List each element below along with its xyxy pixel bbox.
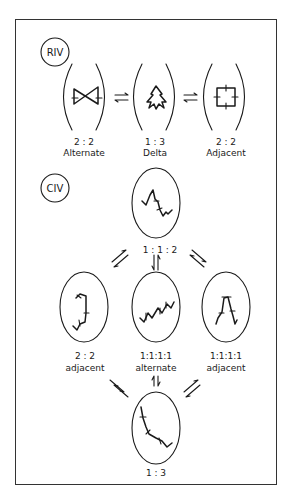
svg-text:Adjacent: Adjacent	[206, 148, 246, 158]
svg-text:1:1:1:1: 1:1:1:1	[210, 351, 242, 361]
config-riv-delta: 1 : 3 Delta	[134, 64, 175, 158]
equilibrium-arrow-1	[115, 93, 128, 102]
chain-top-chromosome	[142, 190, 172, 216]
svg-text:1:1:1:1: 1:1:1:1	[140, 351, 172, 361]
equilibrium-arrow-top-center	[152, 255, 160, 270]
config-civ-adjacent: 1:1:1:1 adjacent	[202, 272, 250, 373]
panel-riv: RIV 2 : 2 Alternate 1 : 3 Delta	[41, 38, 246, 158]
svg-text:2 : 2: 2 : 2	[216, 137, 236, 147]
equilibrium-arrow-top-left	[112, 250, 128, 267]
svg-text:2 : 2: 2 : 2	[74, 137, 94, 147]
svg-text:2 : 2: 2 : 2	[75, 351, 95, 361]
svg-text:Delta: Delta	[143, 148, 167, 158]
svg-text:RIV: RIV	[47, 47, 64, 58]
config-civ-1-1-2: 1 : 1 : 2	[132, 168, 180, 255]
panel-tag-riv: RIV	[41, 38, 69, 66]
svg-text:CIV: CIV	[47, 183, 64, 194]
equilibrium-arrow-bottom-center	[152, 376, 160, 386]
spindle-left-arc	[64, 64, 73, 130]
equilibrium-arrow-bottom-left	[110, 380, 128, 397]
svg-text:adjacent: adjacent	[66, 363, 105, 373]
config-riv-alternate: 2 : 2 Alternate	[63, 64, 105, 158]
svg-text:1 : 1 : 2: 1 : 1 : 2	[143, 245, 178, 255]
config-riv-adjacent: 2 : 2 Adjacent	[204, 64, 247, 158]
equilibrium-arrow-top-right	[190, 250, 206, 267]
equilibrium-arrow-bottom-right	[184, 380, 200, 397]
equilibrium-arrow-2	[184, 93, 197, 102]
svg-text:Alternate: Alternate	[63, 148, 105, 158]
svg-text:1 : 3: 1 : 3	[146, 468, 166, 478]
config-civ-1-3: 1 : 3	[132, 392, 180, 478]
svg-text:1 : 3: 1 : 3	[145, 137, 165, 147]
config-civ-alternate: 1:1:1:1 alternate	[132, 272, 180, 373]
delta-star-chromosome	[147, 86, 166, 109]
bowtie-ring-chromosome	[74, 87, 98, 104]
svg-text:adjacent: adjacent	[207, 363, 246, 373]
panel-tag-civ: CIV	[41, 174, 69, 202]
chain-zigzag-chromosome	[140, 302, 174, 322]
config-civ-2-2-adjacent: 2 : 2 adjacent	[60, 272, 108, 373]
svg-text:alternate: alternate	[136, 363, 177, 373]
chain-bent-chromosome	[141, 407, 172, 447]
panel-civ: CIV 1 : 1 : 2 2 : 2 adjacent	[41, 168, 250, 478]
meiotic-configuration-diagram: RIV 2 : 2 Alternate 1 : 3 Delta	[0, 0, 292, 499]
